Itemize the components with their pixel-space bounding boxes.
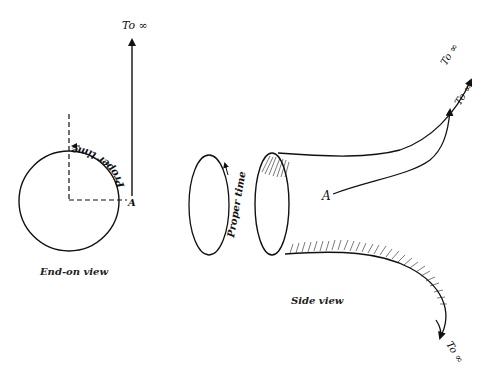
side-view-caption: Side view (291, 295, 344, 306)
loop-arrow (225, 164, 228, 175)
side-point-a-label: A (321, 189, 331, 203)
side-view: Proper time A To ∞ To ∞ To ∞ Side view (189, 41, 474, 365)
to-infinity-label-1: To ∞ (438, 41, 460, 67)
to-infinity-label-2: To ∞ (452, 81, 474, 107)
tube-opening (255, 153, 289, 255)
end-on-view: To ∞ A Proper time End-on view (19, 19, 148, 277)
diagram-svg: To ∞ A Proper time End-on view Proper ti… (0, 0, 483, 380)
proper-time-label: Proper time (70, 145, 126, 191)
to-infinity-label: To ∞ (122, 19, 148, 32)
to-infinity-label-3: To ∞ (444, 339, 466, 365)
proper-time-text: Proper time (70, 145, 126, 191)
tube-bottom-arrow (436, 320, 441, 338)
tube-top-hatching (262, 156, 289, 177)
end-on-view-caption: End-on view (39, 266, 108, 277)
point-a-label: A (127, 197, 136, 208)
proper-time-loop (189, 155, 229, 255)
diagram-canvas: To ∞ A Proper time End-on view Proper ti… (0, 0, 483, 380)
